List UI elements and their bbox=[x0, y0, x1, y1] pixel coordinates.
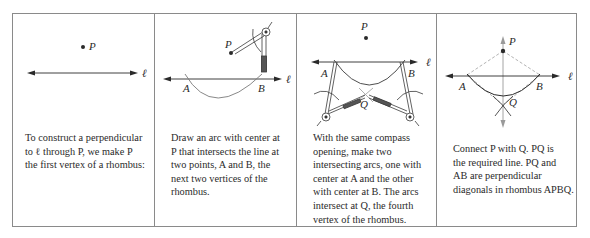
caption-line: To construct a perpendicular bbox=[25, 131, 145, 145]
arc bbox=[334, 60, 405, 85]
label-b: B bbox=[408, 67, 415, 79]
label-l: ℓ bbox=[286, 73, 291, 85]
label-p: P bbox=[224, 38, 232, 50]
arrow-right-icon bbox=[274, 77, 282, 82]
caption-line: vertex of the rhombus. bbox=[313, 213, 421, 227]
arrow-right-icon bbox=[552, 74, 560, 79]
caption-step-4: Connect P with Q. PQ is the required lin… bbox=[453, 142, 574, 196]
caption-step-1: To construct a perpendicular to ℓ throug… bbox=[25, 131, 145, 172]
caption-line: with center at B. The arcs bbox=[313, 185, 421, 199]
caption-line: opening, make two bbox=[313, 145, 421, 159]
arrow-right-icon bbox=[130, 71, 138, 76]
arrow-down-icon bbox=[501, 120, 506, 128]
caption-line: to ℓ through P, we make P bbox=[25, 145, 145, 159]
caption-line: intersect at Q, the fourth bbox=[313, 199, 421, 213]
caption-line: the first vertex of a rhombus: bbox=[25, 158, 145, 172]
rhombus-sides bbox=[467, 51, 540, 105]
arc bbox=[467, 74, 540, 96]
caption-line: Draw an arc with center at bbox=[171, 131, 280, 145]
point-p bbox=[81, 45, 85, 49]
compass-icon bbox=[232, 22, 272, 72]
label-q: Q bbox=[509, 96, 517, 108]
point-p bbox=[501, 49, 505, 53]
panel-step-3: P ℓ A B Q bbox=[297, 14, 436, 226]
caption-line: Connect P with Q. PQ is bbox=[453, 142, 574, 156]
label-p: P bbox=[88, 40, 96, 52]
diagram-step-2: ℓ P A B bbox=[155, 14, 296, 114]
arrow-right-icon bbox=[410, 60, 418, 65]
caption-line: intersecting arcs, one with bbox=[313, 158, 421, 172]
arrow-left-icon bbox=[27, 71, 35, 76]
caption-line: AB are perpendicular bbox=[453, 169, 574, 183]
caption-step-2: Draw an arc with center at P that inters… bbox=[171, 131, 280, 199]
diagram-step-4: ℓ P A B Q bbox=[437, 14, 577, 134]
caption-step-3: With the same compass opening, make two … bbox=[313, 131, 421, 226]
label-l: ℓ bbox=[568, 70, 573, 82]
caption-line: center at A and the other bbox=[313, 172, 421, 186]
label-a: A bbox=[458, 80, 466, 92]
panel-step-1: P ℓ To construct a perpendicular to ℓ th… bbox=[13, 14, 154, 226]
label-p: P bbox=[360, 20, 368, 32]
label-a: A bbox=[182, 82, 190, 94]
arrow-left-icon bbox=[163, 77, 171, 82]
caption-line: With the same compass bbox=[313, 131, 421, 145]
diagram-step-3: P ℓ A B Q bbox=[297, 14, 436, 132]
caption-line: two points, A and B, the bbox=[171, 158, 280, 172]
label-b: B bbox=[258, 82, 265, 94]
panel-step-4: ℓ P A B Q Connect P with Q. PQ is the re… bbox=[437, 14, 577, 226]
label-l: ℓ bbox=[142, 67, 147, 79]
arrow-left-icon bbox=[445, 74, 453, 79]
panel-step-2: ℓ P A B Draw an arc with center at P tha… bbox=[155, 14, 296, 226]
arrow-up-icon bbox=[501, 36, 506, 44]
caption-line: next two vertices of the bbox=[171, 172, 280, 186]
arrow-left-icon bbox=[311, 60, 319, 65]
diagram-step-1: P ℓ bbox=[13, 14, 154, 134]
caption-line: diagonals in rhombus APBQ. bbox=[453, 183, 574, 197]
label-p: P bbox=[508, 35, 516, 47]
label-a: A bbox=[320, 67, 328, 79]
point-p bbox=[364, 36, 368, 40]
caption-line: P that intersects the line at bbox=[171, 145, 280, 159]
caption-line: rhombus. bbox=[171, 185, 280, 199]
label-l: ℓ bbox=[426, 56, 431, 68]
label-b: B bbox=[536, 80, 543, 92]
arc bbox=[185, 74, 262, 98]
caption-line: the required line. PQ and bbox=[453, 156, 574, 170]
